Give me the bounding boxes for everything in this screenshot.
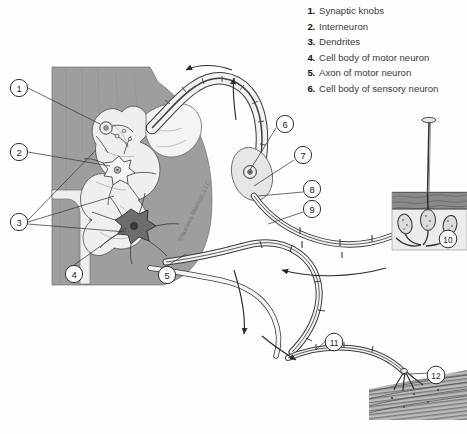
legend-label: Synaptic knobs	[319, 6, 384, 16]
callout-1: 1	[10, 79, 27, 96]
svg-text:9: 9	[309, 204, 314, 215]
figure-canvas: 1 2 3 4 5 6 7	[0, 0, 467, 434]
svg-text:11: 11	[330, 338, 339, 348]
callout-8: 8	[303, 180, 320, 197]
callout-11: 11	[325, 333, 343, 351]
legend: 1. Synaptic knobs 2. Interneuron 3. Dend…	[303, 6, 467, 100]
legend-number: 1.	[303, 6, 315, 16]
legend-item-4: 4. Cell body of motor neuron	[303, 53, 467, 63]
svg-text:2: 2	[16, 147, 21, 158]
signal-direction-arrows	[186, 66, 386, 361]
legend-label: Cell body of motor neuron	[319, 53, 429, 63]
skin-and-tack	[392, 117, 467, 250]
legend-item-2: 2. Interneuron	[303, 22, 467, 32]
legend-number: 3.	[303, 37, 315, 47]
svg-text:8: 8	[309, 184, 314, 195]
callout-10: 10	[439, 230, 457, 248]
svg-text:12: 12	[431, 371, 441, 381]
legend-label: Dendrites	[319, 37, 360, 47]
callout-2: 2	[10, 143, 27, 160]
svg-text:7: 7	[300, 150, 305, 161]
tack-icon	[422, 117, 436, 196]
legend-item-1: 1. Synaptic knobs	[303, 6, 467, 16]
legend-number: 6.	[303, 84, 315, 94]
callout-12: 12	[427, 366, 445, 384]
svg-text:5: 5	[164, 270, 169, 281]
svg-text:1: 1	[16, 83, 21, 94]
legend-label: Axon of motor neuron	[319, 68, 411, 78]
legend-item-5: 5. Axon of motor neuron	[303, 68, 467, 78]
svg-text:3: 3	[16, 217, 21, 228]
svg-text:6: 6	[282, 119, 287, 130]
callout-6: 6	[276, 115, 293, 132]
callout-9: 9	[303, 200, 320, 217]
svg-text:4: 4	[71, 269, 76, 280]
legend-item-3: 3. Dendrites	[303, 37, 467, 47]
legend-label: Cell body of sensory neuron	[319, 84, 438, 94]
legend-number: 2.	[303, 22, 315, 32]
callout-3: 3	[10, 213, 27, 230]
legend-number: 4.	[303, 53, 315, 63]
svg-text:10: 10	[443, 235, 453, 245]
legend-item-6: 6. Cell body of sensory neuron	[303, 84, 467, 94]
arrow-sensory-inward	[282, 268, 386, 276]
legend-number: 5.	[303, 68, 315, 78]
callout-5: 5	[158, 266, 175, 283]
callout-4: 4	[65, 265, 82, 282]
arrow-afferent-top	[186, 66, 232, 71]
arrow-motor-down	[234, 270, 245, 334]
callout-7: 7	[294, 146, 311, 163]
legend-label: Interneuron	[319, 22, 368, 32]
